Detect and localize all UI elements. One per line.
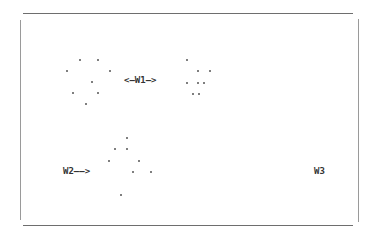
point-dot (150, 171, 152, 173)
point-dot (120, 194, 122, 196)
point-dot (197, 70, 199, 72)
label-w3: W3 (314, 166, 325, 176)
point-dot (108, 160, 110, 162)
point-dot (126, 148, 128, 150)
frame-left-line (20, 20, 21, 220)
point-dot (186, 59, 188, 61)
label-w1-double-arrow: <—W1—> (124, 75, 157, 85)
point-dot (192, 93, 194, 95)
point-dot (97, 92, 99, 94)
point-dot (209, 70, 211, 72)
point-dot (138, 160, 140, 162)
point-dot (79, 59, 81, 61)
point-dot (186, 82, 188, 84)
point-dot (197, 82, 199, 84)
point-dot (85, 103, 87, 105)
label-w2-arrow: W2——> (63, 166, 90, 176)
point-dot (203, 82, 205, 84)
point-dot (97, 59, 99, 61)
point-dot (114, 148, 116, 150)
frame-bottom-line (23, 225, 353, 226)
point-dot (91, 81, 93, 83)
point-dot (126, 137, 128, 139)
point-dot (109, 70, 111, 72)
point-dot (132, 171, 134, 173)
frame-right-line (358, 19, 359, 222)
point-dot (198, 93, 200, 95)
frame-top-line (23, 13, 353, 14)
point-dot (66, 70, 68, 72)
point-dot (72, 92, 74, 94)
